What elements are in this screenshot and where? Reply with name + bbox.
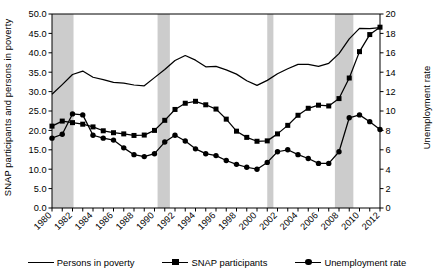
data-point-marker <box>101 128 106 133</box>
data-point-marker <box>142 154 147 159</box>
data-point-marker <box>255 139 260 144</box>
data-point-marker <box>121 145 126 150</box>
y-axis-right-tick-label: 20 <box>386 9 396 19</box>
data-point-marker <box>357 49 362 54</box>
data-point-marker <box>285 147 290 152</box>
data-point-marker <box>378 25 383 30</box>
data-point-marker <box>326 161 331 166</box>
y-axis-right-tick-label: 6 <box>386 145 391 155</box>
data-point-marker <box>326 103 331 108</box>
chart-plot: 0.05.010.015.020.025.030.035.040.045.050… <box>0 0 434 275</box>
data-point-marker <box>101 135 106 140</box>
data-point-marker <box>265 160 270 165</box>
data-point-marker <box>193 146 198 151</box>
y-axis-left-tick-label: 5.0 <box>34 184 47 194</box>
y-axis-right-tick-label: 10 <box>386 106 396 116</box>
y-axis-right-tick-label: 4 <box>386 165 391 175</box>
data-point-marker <box>316 103 321 108</box>
y-axis-right-tick-label: 12 <box>386 87 396 97</box>
data-point-marker <box>90 133 95 138</box>
recession-band <box>52 14 74 208</box>
data-point-marker <box>60 132 65 137</box>
y-axis-right-tick-label: 18 <box>386 29 396 39</box>
data-point-marker <box>316 161 321 166</box>
data-point-marker <box>91 124 96 129</box>
data-point-marker <box>80 122 85 127</box>
x-axis-tick-label: 2008 <box>319 210 341 232</box>
data-point-marker <box>60 119 65 124</box>
x-axis-tick-label: 1982 <box>52 210 74 232</box>
x-axis-tick-label: 1990 <box>134 210 156 232</box>
data-point-marker <box>203 102 208 107</box>
data-point-marker <box>377 127 382 132</box>
series-line-unemployment-rate <box>52 114 380 169</box>
series-line-snap-participants <box>52 27 380 141</box>
y-axis-right-tick-label: 0 <box>386 203 391 213</box>
data-point-marker <box>111 137 116 142</box>
y-axis-right-tick-label: 8 <box>386 126 391 136</box>
y-axis-left-tick-label: 10.0 <box>29 165 47 175</box>
data-point-marker <box>285 123 290 128</box>
x-axis-tick-label: 2006 <box>298 210 320 232</box>
x-axis-tick-label: 2012 <box>360 210 382 232</box>
data-point-marker <box>336 149 341 154</box>
legend-item-persons-in-poverty: Persons in poverty <box>28 257 135 268</box>
legend-circle-marker-icon <box>295 257 321 267</box>
y-axis-left-tick-label: 40.0 <box>29 48 47 58</box>
data-point-marker <box>224 117 229 122</box>
y-axis-left-tick-label: 35.0 <box>29 68 47 78</box>
data-point-marker <box>306 106 311 111</box>
data-point-marker <box>121 131 126 136</box>
y-axis-left-tick-label: 20.0 <box>29 126 47 136</box>
data-point-marker <box>234 129 239 134</box>
legend-label: Persons in poverty <box>57 257 135 268</box>
data-point-marker <box>357 112 362 117</box>
data-point-marker <box>254 167 259 172</box>
x-axis-tick-label: 2004 <box>278 210 300 232</box>
data-point-marker <box>296 113 301 118</box>
recession-band <box>267 14 273 208</box>
x-axis-tick-label: 2000 <box>237 210 259 232</box>
data-point-marker <box>367 119 372 124</box>
y-axis-left-tick-label: 50.0 <box>29 9 47 19</box>
data-point-marker <box>214 107 219 112</box>
data-point-marker <box>213 153 218 158</box>
data-point-marker <box>152 151 157 156</box>
data-point-marker <box>203 151 208 156</box>
y-axis-left-tick-label: 25.0 <box>29 106 47 116</box>
legend-label: Unemployment rate <box>324 257 406 268</box>
data-point-marker <box>172 133 177 138</box>
data-point-marker <box>183 138 188 143</box>
x-axis-tick-label: 1996 <box>196 210 218 232</box>
recession-band <box>335 14 353 208</box>
x-axis-tick-label: 1994 <box>175 210 197 232</box>
data-point-marker <box>367 32 372 37</box>
data-point-marker <box>173 107 178 112</box>
x-axis-tick-label: 2002 <box>257 210 279 232</box>
data-point-marker <box>337 96 342 101</box>
legend-item-snap-participants: SNAP participants <box>162 257 267 268</box>
data-point-marker <box>347 76 352 81</box>
x-axis-tick-label: 1988 <box>114 210 136 232</box>
legend-square-marker-icon <box>162 257 188 267</box>
y-axis-right-tick-label: 14 <box>386 68 396 78</box>
series-line-persons-in-poverty <box>52 28 380 95</box>
data-point-marker <box>132 133 137 138</box>
data-point-marker <box>224 158 229 163</box>
data-point-marker <box>306 156 311 161</box>
x-axis-tick-label: 1998 <box>216 210 238 232</box>
data-point-marker <box>162 139 167 144</box>
data-point-marker <box>111 130 116 135</box>
data-point-marker <box>234 162 239 167</box>
x-axis-tick-label: 1992 <box>155 210 177 232</box>
chart-legend: Persons in poverty SNAP participants Une… <box>0 252 434 272</box>
legend-line-swatch-icon <box>28 257 54 267</box>
data-point-marker <box>347 115 352 120</box>
legend-item-unemployment-rate: Unemployment rate <box>295 257 406 268</box>
x-axis-tick-label: 1980 <box>32 210 54 232</box>
data-point-marker <box>193 99 198 104</box>
y-axis-left-tick-label: 15.0 <box>29 145 47 155</box>
data-point-marker <box>244 135 249 140</box>
y-axis-left-tick-label: 30.0 <box>29 87 47 97</box>
y-axis-left-tick-label: 45.0 <box>29 29 47 39</box>
